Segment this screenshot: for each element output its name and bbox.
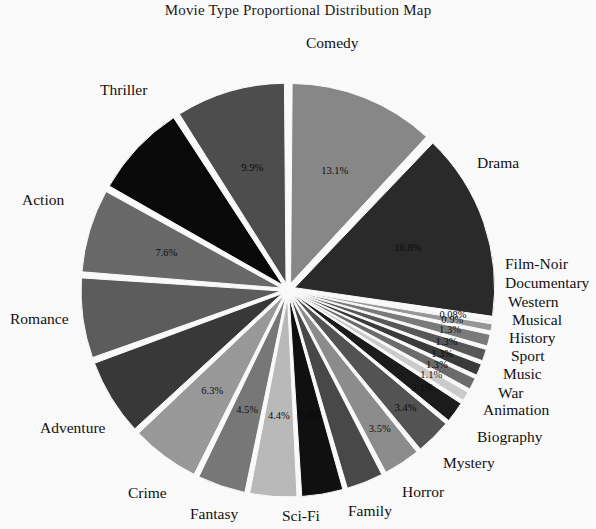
slice-label-family: Family: [348, 503, 392, 519]
slice-label-crime: Crime: [128, 485, 167, 501]
pie-percent-drama: 16.8%: [394, 242, 421, 253]
pie-percent-thriller: 9.9%: [241, 162, 263, 173]
slice-label-western: Western: [508, 294, 558, 310]
slice-label-fantasy: Fantasy: [190, 506, 238, 522]
slice-label-thriller: Thriller: [100, 82, 147, 98]
pie-percent-comedy: 13.1%: [321, 165, 348, 176]
slice-label-drama: Drama: [477, 155, 519, 171]
pie-percent-animation: 3.4%: [395, 402, 417, 413]
slice-label-sport: Sport: [511, 348, 545, 364]
pie-percent-horror: 3.9%: [298, 409, 320, 420]
pie-percent-biography: 3.5%: [369, 423, 391, 434]
slice-label-horror: Horror: [402, 484, 444, 500]
slice-label-history: History: [509, 330, 556, 346]
pie-percent-western: 1.3%: [439, 324, 461, 335]
slice-label-adventure: Adventure: [40, 420, 105, 436]
pie-percent-history: 1.3%: [431, 348, 453, 359]
slice-label-war: War: [498, 385, 523, 401]
slice-label-biography: Biography: [477, 429, 542, 445]
pie-percent-sci-fi: 4.5%: [236, 404, 258, 415]
slice-label-mystery: Mystery: [443, 455, 495, 471]
pie-slice-group: [81, 83, 495, 497]
slice-label-animation: Animation: [483, 402, 549, 418]
pie-chart-figure: Movie Type Proportional Distribution Map…: [0, 0, 596, 529]
slice-label-film-noir: Film-Noir: [505, 256, 568, 272]
slice-label-music: Music: [503, 366, 542, 382]
slice-label-documentary: Documentary: [505, 275, 589, 291]
pie-percent-documentary: 0.9%: [441, 314, 463, 325]
pie-percent-music: 1.1%: [420, 369, 442, 380]
pie-percent-war: 2.1%: [412, 382, 434, 393]
pie-percent-family: 4.4%: [268, 410, 290, 421]
slice-label-comedy: Comedy: [306, 35, 359, 51]
slice-label-romance: Romance: [10, 311, 69, 327]
slice-label-scifi: Sci-Fi: [282, 508, 320, 524]
pie-percent-musical: 1.3%: [436, 336, 458, 347]
pie-percent-romance: 7.6%: [155, 247, 177, 258]
slice-label-musical: Musical: [512, 312, 562, 328]
slice-label-action: Action: [22, 192, 64, 208]
pie-percent-fantasy: 6.3%: [201, 385, 223, 396]
